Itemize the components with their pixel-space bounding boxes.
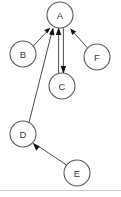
edge-e-to-d-arrowhead (33, 142, 40, 150)
node-b-label: B (20, 49, 26, 60)
edge-e-to-d (33, 142, 67, 165)
edge-b-to-a-line (33, 32, 46, 46)
node-d-label: D (20, 129, 27, 140)
node-e-label: E (74, 168, 80, 179)
node-d[interactable]: D (10, 121, 36, 147)
node-a[interactable]: A (47, 2, 73, 28)
directed-graph: A B F C D E (0, 0, 121, 197)
edge-b-to-a-arrowhead (44, 28, 50, 33)
edge-c-to-a (56, 27, 61, 73)
node-f-label: F (94, 52, 100, 63)
node-f[interactable]: F (84, 44, 110, 70)
edge-b-to-a (33, 28, 50, 46)
edge-e-to-d-line (38, 146, 67, 165)
node-a-label: A (57, 10, 64, 21)
node-b[interactable]: B (10, 41, 36, 67)
node-c-label: C (59, 81, 66, 92)
node-e[interactable]: E (64, 160, 90, 186)
edge-f-to-a-line (74, 33, 88, 49)
node-c[interactable]: C (49, 73, 75, 99)
diagram-canvas: A B F C D E (0, 0, 121, 197)
edge-a-to-c (61, 28, 66, 74)
edge-d-to-a (29, 27, 54, 122)
edge-f-to-a (70, 29, 88, 49)
